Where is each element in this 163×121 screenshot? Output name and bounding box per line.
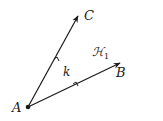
half-plane-subscript: 1: [104, 52, 109, 61]
vertex-point-a: [26, 105, 31, 110]
point-label-c: C: [84, 8, 94, 23]
angle-diagram: A C B k ℋ1: [0, 0, 163, 121]
vertex-label-a: A: [11, 100, 21, 115]
ray-ac: [28, 16, 78, 107]
half-plane-label: ℋ1: [92, 45, 109, 61]
point-label-b: B: [115, 65, 126, 80]
ray-ab: [28, 63, 120, 107]
angle-label-k: k: [63, 65, 70, 79]
